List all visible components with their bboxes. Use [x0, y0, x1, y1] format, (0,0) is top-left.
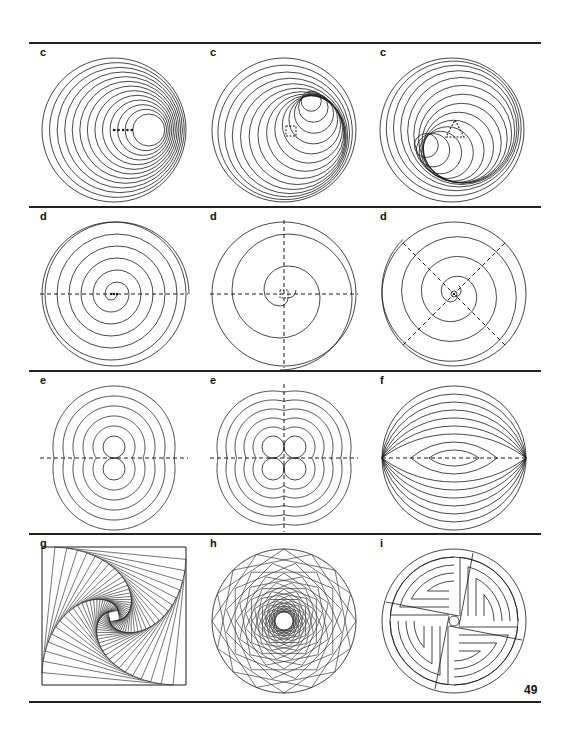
knot-arm: [386, 557, 518, 621]
nested-square: [56, 560, 173, 672]
eccentric-circle: [95, 91, 174, 170]
chord-line: [212, 621, 256, 688]
chord-line: [312, 621, 356, 688]
figure-e2-drawing: [198, 372, 370, 532]
chord-line: [284, 649, 351, 693]
knot-band: [454, 635, 508, 677]
lens-arc: [382, 458, 526, 498]
eccentric-circle: [422, 103, 501, 182]
chord-line: [226, 563, 272, 609]
lens-arc: [382, 418, 526, 458]
knot-band: [468, 567, 510, 621]
eccentric-circle: [267, 94, 344, 171]
chord-line: [217, 549, 284, 593]
core-circle: [262, 458, 284, 480]
nested-square: [52, 556, 177, 675]
knot-band: [428, 581, 454, 591]
inner-circle: [275, 612, 293, 630]
knot-arm: [454, 553, 518, 685]
core-circle: [284, 436, 306, 458]
knot-band: [435, 616, 449, 689]
figure-c3-drawing: [368, 44, 540, 204]
figure-c1-drawing: [28, 44, 200, 204]
figure-h-drawing: [198, 535, 370, 695]
nested-square: [104, 607, 123, 626]
spiral-stroke: [45, 222, 189, 360]
lens-arc: [382, 434, 526, 458]
eccentric-circle: [401, 71, 517, 187]
ring-circle: [390, 557, 518, 685]
eccentric-circle: [419, 131, 461, 173]
knot-band: [400, 565, 454, 607]
figure-d3-drawing: [368, 208, 540, 368]
nested-square: [78, 581, 151, 651]
core-circle: [284, 458, 306, 480]
figure-c-line-generator: c: [28, 44, 200, 204]
nested-square: [82, 585, 146, 647]
chord-line: [312, 554, 356, 621]
figure-d-diagonal-spiral: d: [368, 208, 540, 368]
figure-c2-drawing: [198, 44, 370, 204]
knot-band: [454, 643, 497, 669]
page-number: 49: [524, 683, 537, 697]
eccentric-circle: [212, 58, 356, 202]
knot-band: [411, 573, 454, 599]
knot-band: [414, 621, 424, 647]
eccentric-circle: [218, 65, 352, 199]
figure-g-drawing: [28, 535, 200, 695]
eccentric-circle: [225, 72, 350, 197]
figure-g-whirling-squares: g: [28, 535, 200, 695]
figure-f-drawing: [368, 372, 540, 532]
centre-point: [113, 293, 115, 295]
chord-line: [284, 549, 351, 593]
hub-circle: [449, 616, 459, 626]
nested-square: [73, 577, 155, 655]
figure-e-four-circles: e: [198, 372, 370, 532]
knot-arm: [390, 621, 522, 685]
lens-arc: [382, 458, 526, 482]
figure-h-rotating-polygons: h: [198, 535, 370, 695]
nested-square: [108, 611, 119, 622]
figure-f-lens-arcs: f: [368, 372, 540, 532]
figure-i-drawing: [368, 535, 540, 695]
spiral-stroke: [232, 234, 352, 370]
knot-band: [449, 626, 522, 640]
knot-band: [386, 602, 459, 616]
generator-triangle: [446, 120, 464, 137]
figure-c-square-generator: c: [198, 44, 370, 204]
figure-i-knot: i: [368, 535, 540, 695]
eccentric-circle: [423, 120, 484, 181]
core-circle: [103, 458, 125, 480]
chord-line: [295, 563, 341, 609]
nested-square: [86, 589, 142, 643]
figure-d1-drawing: [28, 208, 200, 368]
core-circle: [103, 436, 125, 458]
figure-e1-drawing: [28, 372, 200, 532]
book-page: c c c d d d e e f g h i: [0, 0, 566, 733]
nested-square: [64, 568, 164, 663]
figure-d2-drawing: [198, 208, 370, 368]
chord-line: [295, 632, 341, 678]
eccentric-circle: [133, 114, 165, 146]
knot-band: [476, 578, 502, 621]
knot-band: [454, 651, 480, 661]
outer-circle: [212, 549, 356, 693]
figure-c-triangle-generator: c: [368, 44, 540, 204]
nested-square: [69, 573, 160, 660]
nested-square: [48, 553, 180, 679]
eccentric-circle: [386, 61, 521, 196]
figure-d-two-centre-spiral: d: [28, 208, 200, 368]
row-divider: [29, 701, 541, 703]
eccentric-circle: [380, 58, 524, 202]
knot-band: [484, 595, 494, 621]
knot-arm: [390, 557, 454, 689]
nested-square: [45, 550, 182, 682]
chord-line: [226, 632, 272, 678]
lens-arc: [429, 450, 479, 458]
chord-line: [217, 649, 284, 693]
centre-point: [116, 293, 118, 295]
lens-arc: [429, 458, 479, 466]
eccentric-circle: [72, 77, 179, 184]
knot-band: [406, 621, 432, 664]
chord-line: [212, 554, 256, 621]
